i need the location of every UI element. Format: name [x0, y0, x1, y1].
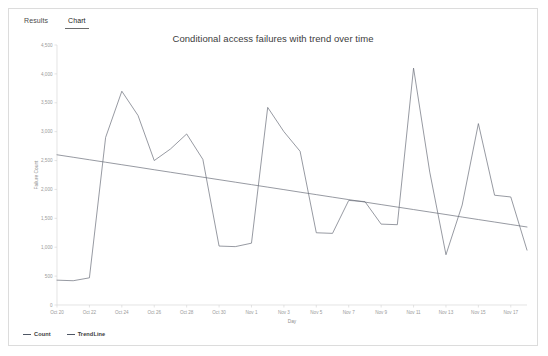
- svg-text:3,000: 3,000: [41, 129, 53, 134]
- svg-text:Nov 15: Nov 15: [471, 310, 486, 315]
- svg-text:Nov 5: Nov 5: [310, 310, 322, 315]
- chart-legend: Count TrendLine: [23, 331, 105, 337]
- chart-plot-area: 05001,0001,5002,0002,5003,0003,5004,0004…: [9, 9, 539, 347]
- svg-text:Nov 3: Nov 3: [278, 310, 290, 315]
- svg-text:Oct 24: Oct 24: [115, 310, 129, 315]
- svg-text:2,000: 2,000: [41, 187, 53, 192]
- svg-text:Oct 30: Oct 30: [212, 310, 226, 315]
- svg-text:4,000: 4,000: [41, 72, 53, 77]
- svg-text:3,500: 3,500: [41, 100, 53, 105]
- svg-text:Nov 13: Nov 13: [439, 310, 454, 315]
- svg-text:0: 0: [50, 303, 53, 308]
- svg-text:Nov 11: Nov 11: [406, 310, 421, 315]
- svg-text:Oct 20: Oct 20: [50, 310, 64, 315]
- svg-text:1,500: 1,500: [41, 216, 53, 221]
- svg-text:Nov 7: Nov 7: [343, 310, 355, 315]
- legend-line-icon-count: [23, 334, 31, 335]
- svg-text:Nov 17: Nov 17: [504, 310, 519, 315]
- svg-text:Failure Count: Failure Count: [34, 160, 39, 189]
- legend-item-count[interactable]: Count: [23, 331, 51, 337]
- legend-line-icon-trendline: [67, 334, 75, 335]
- svg-text:Oct 22: Oct 22: [83, 310, 97, 315]
- svg-text:Nov 9: Nov 9: [375, 310, 387, 315]
- line-chart: 05001,0001,5002,0002,5003,0003,5004,0004…: [9, 9, 539, 347]
- chart-card: Results Chart Conditional access failure…: [8, 8, 538, 346]
- svg-text:4,500: 4,500: [41, 43, 53, 48]
- legend-label-trendline: TrendLine: [78, 331, 106, 337]
- svg-text:2,500: 2,500: [41, 158, 53, 163]
- legend-label-count: Count: [34, 331, 51, 337]
- svg-text:Nov 1: Nov 1: [245, 310, 257, 315]
- svg-text:Oct 26: Oct 26: [147, 310, 161, 315]
- svg-text:500: 500: [45, 274, 53, 279]
- svg-text:1,000: 1,000: [41, 245, 53, 250]
- svg-text:Oct 28: Oct 28: [180, 310, 194, 315]
- svg-text:Day: Day: [288, 319, 297, 324]
- legend-item-trendline[interactable]: TrendLine: [67, 331, 106, 337]
